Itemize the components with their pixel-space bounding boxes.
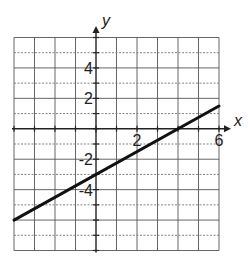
y-axis-arrow-icon [93,26,100,33]
y-tick-label: 4 [84,60,93,77]
axes: x y [12,12,243,253]
x-axis-label: x [233,112,243,129]
x-axis-arrow-icon [224,125,231,132]
y-tick-label: -2 [79,151,93,168]
y-axis-label: y [101,12,111,29]
x-tick-label: 6 [215,132,224,149]
coordinate-graph: x y 2642-2-4 [0,0,248,258]
x-tick-label: 2 [133,132,142,149]
grid [14,38,219,251]
y-tick-label: 2 [84,90,93,107]
